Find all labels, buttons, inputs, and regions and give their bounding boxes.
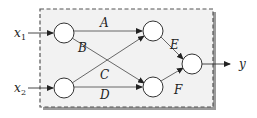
output-node	[182, 54, 202, 74]
input-node-1	[54, 23, 74, 43]
edge-label-C: C	[100, 68, 109, 82]
label-x2-subscript: 2	[21, 88, 26, 97]
input-node-2	[54, 78, 74, 98]
edge-label-E: E	[169, 38, 179, 52]
edge-label-A: A	[99, 16, 109, 30]
hidden-node-1	[143, 21, 163, 41]
label-x2: x	[14, 81, 21, 95]
edge-label-F: F	[173, 83, 183, 97]
label-x1-subscript: 1	[21, 33, 26, 42]
hidden-node-2	[143, 77, 163, 97]
edge-label-D: D	[99, 88, 110, 102]
label-x1: x	[14, 26, 21, 40]
label-y: y	[238, 57, 246, 71]
network-diagram: x 1 x 2 A B C D E F y	[0, 0, 257, 118]
edge-label-B: B	[77, 41, 87, 55]
